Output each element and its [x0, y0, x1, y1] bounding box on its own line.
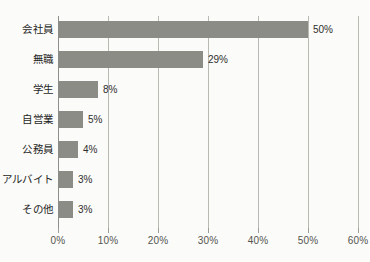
- x-axis-tick-label: 50%: [298, 235, 319, 246]
- x-axis-tick-label: 20%: [148, 235, 169, 246]
- bar-row: 4%: [58, 136, 358, 166]
- bar-row: 8%: [58, 76, 358, 106]
- bar-value-label: 3%: [73, 171, 92, 188]
- x-axis-tick-label: 40%: [248, 235, 269, 246]
- x-axis-tick-mark: [208, 228, 209, 233]
- bar: [58, 141, 78, 158]
- x-axis-tick-label: 10%: [98, 235, 119, 246]
- x-axis-tick-label: 30%: [198, 235, 219, 246]
- category-label: 学生: [0, 81, 53, 98]
- bar-value-label: 50%: [308, 21, 333, 38]
- category-label: 無職: [0, 51, 53, 68]
- x-axis-tick-mark: [358, 228, 359, 233]
- bar: [58, 171, 73, 188]
- bar-value-label: 4%: [78, 141, 97, 158]
- x-axis-tick-mark: [108, 228, 109, 233]
- category-label: 会社員: [0, 21, 53, 38]
- bar-value-label: 29%: [203, 51, 228, 68]
- bar-row: 3%: [58, 166, 358, 196]
- x-axis-tick-mark: [58, 228, 59, 233]
- x-axis-tick-mark: [158, 228, 159, 233]
- category-label: 公務員: [0, 141, 53, 158]
- x-axis-tick-label: 60%: [348, 235, 369, 246]
- bar-row: 29%: [58, 46, 358, 76]
- bar: [58, 21, 308, 38]
- bar-row: 3%: [58, 196, 358, 226]
- x-axis-tick-mark: [258, 228, 259, 233]
- gridline: [358, 16, 359, 228]
- bar-value-label: 5%: [83, 111, 102, 128]
- bar: [58, 51, 203, 68]
- category-label: その他: [0, 201, 53, 218]
- bar-value-label: 8%: [98, 81, 117, 98]
- x-axis-tick-mark: [308, 228, 309, 233]
- bar-row: 5%: [58, 106, 358, 136]
- bar-chart: 50%29%8%5%4%3%3% 会社員無職学生自営業公務員アルバイトその他 0…: [0, 0, 370, 262]
- bar-value-label: 3%: [73, 201, 92, 218]
- category-label: アルバイト: [0, 171, 53, 188]
- x-axis-tick-label: 0%: [51, 235, 66, 246]
- bar: [58, 81, 98, 98]
- bar: [58, 201, 73, 218]
- category-label: 自営業: [0, 111, 53, 128]
- bar: [58, 111, 83, 128]
- bar-row: 50%: [58, 16, 358, 46]
